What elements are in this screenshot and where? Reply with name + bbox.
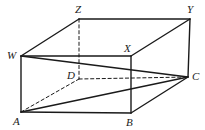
diagonal-w-c xyxy=(21,56,188,77)
vertex-label-x: X xyxy=(124,43,131,54)
vertex-label-d: D xyxy=(67,70,75,81)
diagonal-layer xyxy=(21,56,188,112)
edge-w-z xyxy=(21,19,79,56)
edge-a-d-hidden xyxy=(21,79,79,112)
vertex-label-b: B xyxy=(126,117,133,128)
vertex-label-c: C xyxy=(192,71,199,82)
edge-d-c-hidden xyxy=(79,77,188,79)
vertex-label-a: A xyxy=(13,116,20,127)
prism-drawing xyxy=(0,0,205,130)
diagonal-a-c xyxy=(21,77,188,112)
vertex-label-y: Y xyxy=(187,4,193,15)
edge-y-c xyxy=(188,19,190,77)
vertex-label-z: Z xyxy=(75,4,81,15)
geometry-figure: WZYXADCB xyxy=(0,0,205,130)
edge-a-b xyxy=(21,112,131,113)
edge-y-x xyxy=(131,19,190,56)
vertex-label-w: W xyxy=(7,50,16,61)
